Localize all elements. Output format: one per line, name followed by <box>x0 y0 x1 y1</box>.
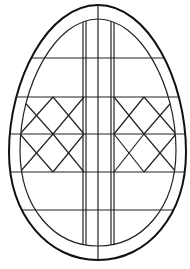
egg-drawing <box>0 0 190 269</box>
